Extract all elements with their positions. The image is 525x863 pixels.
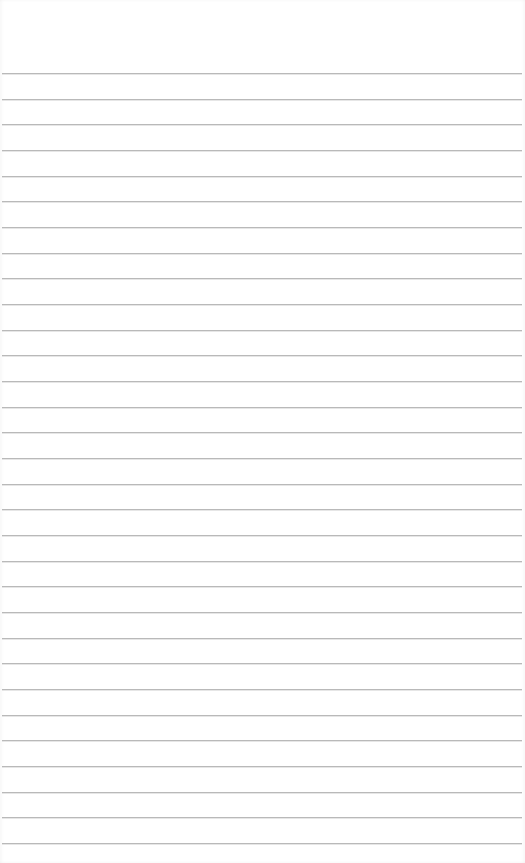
ruled-line [2,278,522,279]
ruled-line [2,817,522,818]
ruled-line [2,432,522,433]
ruled-line [2,407,522,408]
ruled-line [2,330,522,331]
ruled-line [2,715,522,716]
ruled-line [2,253,522,254]
ruled-line [2,612,522,613]
ruled-line [2,766,522,767]
ruled-line [2,484,522,485]
ruled-line [2,99,522,100]
ruled-line [2,535,522,536]
lined-paper-sheet [0,0,525,863]
ruled-line [2,124,522,125]
ruled-line [2,689,522,690]
ruled-line [2,355,522,356]
ruled-line [2,740,522,741]
ruled-line [2,586,522,587]
ruled-line [2,304,522,305]
ruled-line [2,843,522,844]
ruled-line [2,509,522,510]
ruled-line [2,73,522,74]
ruled-line [2,458,522,459]
ruled-line [2,150,522,151]
ruled-line [2,381,522,382]
ruled-line [2,176,522,177]
ruled-line [2,663,522,664]
ruled-line [2,201,522,202]
ruled-line [2,561,522,562]
ruled-line [2,792,522,793]
ruled-line [2,638,522,639]
ruled-line [2,227,522,228]
